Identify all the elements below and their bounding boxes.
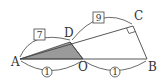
point-label-O: O xyxy=(78,60,88,74)
circle-label-OB-text: 1 xyxy=(112,67,118,77)
circle-label-AO-text: 1 xyxy=(44,67,50,77)
point-label-D: D xyxy=(64,26,74,40)
point-label-B: B xyxy=(148,60,157,74)
box-label-9-text: 9 xyxy=(96,13,102,23)
geometry-diagram: 7 9 1 1 A O B D C xyxy=(0,0,167,83)
point-label-A: A xyxy=(10,55,20,69)
point-label-C: C xyxy=(134,9,143,23)
box-label-7-text: 7 xyxy=(37,30,43,40)
segment-CB xyxy=(133,26,147,59)
